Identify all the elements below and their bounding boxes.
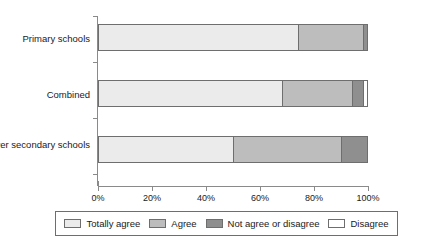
- legend-item-totally-agree[interactable]: Totally agree: [64, 218, 140, 229]
- legend-label: Not agree or disagree: [228, 218, 320, 229]
- bar-segment: [233, 136, 341, 163]
- legend-item-not-agree-or-disagree[interactable]: Not agree or disagree: [206, 218, 320, 229]
- x-axis-tick: [368, 186, 369, 191]
- x-axis-tick: [206, 186, 207, 191]
- legend-label: Agree: [171, 218, 196, 229]
- plot-area: [98, 16, 368, 186]
- legend-swatch-icon: [64, 219, 81, 228]
- category-label-lower-secondary-schools: Lower secondary schools: [0, 139, 90, 151]
- y-axis-tick: [93, 174, 98, 175]
- legend-swatch-icon: [328, 219, 345, 228]
- bar-segment: [98, 24, 298, 51]
- x-axis-tick-label: 60%: [238, 193, 282, 203]
- legend-label: Totally agree: [86, 218, 140, 229]
- x-axis-tick-label: 20%: [130, 193, 174, 203]
- legend: Totally agree Agree Not agree or disagre…: [55, 211, 398, 236]
- legend-label: Disagree: [350, 218, 388, 229]
- legend-swatch-icon: [206, 219, 223, 228]
- x-axis-tick: [260, 186, 261, 191]
- stacked-bar-chart: Primary schools Combined Lower secondary…: [0, 0, 427, 244]
- bar-segment: [98, 136, 233, 163]
- x-axis-tick-label: 0%: [76, 193, 120, 203]
- legend-item-agree[interactable]: Agree: [149, 218, 196, 229]
- x-axis-tick: [314, 186, 315, 191]
- y-axis-tick: [93, 16, 98, 17]
- category-label-combined: Combined: [0, 89, 90, 101]
- x-axis-tick: [152, 186, 153, 191]
- x-axis-tick-label: 40%: [184, 193, 228, 203]
- y-axis-tick: [93, 62, 98, 63]
- bar-row: [98, 80, 368, 107]
- bar-segment: [341, 136, 368, 163]
- bar-row: [98, 136, 368, 163]
- y-axis-tick: [93, 118, 98, 119]
- x-axis-tick-label: 100%: [346, 193, 390, 203]
- legend-item-disagree[interactable]: Disagree: [328, 218, 388, 229]
- x-axis-tick: [98, 181, 99, 191]
- x-axis-tick-label: 80%: [292, 193, 336, 203]
- bar-segment: [298, 24, 363, 51]
- bar-row: [98, 24, 368, 51]
- bar-segment: [352, 80, 363, 107]
- x-axis-line: [98, 186, 369, 187]
- category-label-primary-schools: Primary schools: [0, 33, 90, 45]
- legend-swatch-icon: [149, 219, 166, 228]
- bar-segment: [98, 80, 282, 107]
- bar-segment: [363, 80, 368, 107]
- bar-segment: [282, 80, 352, 107]
- bar-segment: [363, 24, 368, 51]
